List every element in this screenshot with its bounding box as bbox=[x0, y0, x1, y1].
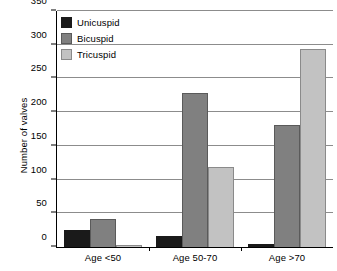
bar[interactable] bbox=[116, 245, 142, 247]
bar[interactable] bbox=[248, 244, 274, 247]
y-tick-label: 0 bbox=[42, 231, 47, 242]
y-tick-label: 50 bbox=[36, 197, 47, 208]
y-tick-label: 200 bbox=[31, 96, 47, 107]
x-tick-label-1: Age 50-70 bbox=[149, 252, 241, 263]
x-tick-label-0: Age <50 bbox=[57, 252, 149, 263]
bar[interactable] bbox=[90, 219, 116, 247]
legend-label: Unicuspid bbox=[77, 17, 121, 28]
y-axis-ticks: 050100150200250300350 bbox=[0, 11, 56, 247]
bar[interactable] bbox=[156, 236, 182, 247]
y-tick-label: 100 bbox=[31, 163, 47, 174]
legend-item[interactable]: Tricuspid bbox=[61, 48, 121, 61]
bar[interactable] bbox=[300, 49, 326, 247]
y-tick-label: 150 bbox=[31, 129, 47, 140]
bar[interactable] bbox=[274, 125, 300, 247]
legend-swatch-icon bbox=[61, 49, 72, 60]
x-axis-separator bbox=[149, 247, 150, 251]
x-axis-separator bbox=[241, 247, 242, 251]
bar[interactable] bbox=[208, 167, 234, 247]
legend-label: Bicuspid bbox=[77, 33, 115, 44]
legend-swatch-icon bbox=[61, 17, 72, 28]
x-axis-labels: Age <50Age 50-70Age >70 bbox=[57, 252, 333, 263]
y-tick-label: 250 bbox=[31, 62, 47, 73]
legend-swatch-icon bbox=[61, 33, 72, 44]
legend-label: Tricuspid bbox=[77, 49, 117, 60]
y-tick-label: 350 bbox=[31, 0, 47, 6]
bar-group bbox=[241, 11, 333, 247]
y-tick-label: 300 bbox=[31, 28, 47, 39]
legend: UnicuspidBicuspidTricuspid bbox=[61, 16, 121, 61]
legend-item[interactable]: Unicuspid bbox=[61, 16, 121, 29]
bar[interactable] bbox=[64, 230, 90, 247]
bar[interactable] bbox=[182, 93, 208, 247]
bar-group bbox=[149, 11, 241, 247]
bar-chart: Number of valves 050100150200250300350 A… bbox=[0, 0, 337, 271]
legend-item[interactable]: Bicuspid bbox=[61, 32, 121, 45]
x-tick-label-2: Age >70 bbox=[241, 252, 333, 263]
